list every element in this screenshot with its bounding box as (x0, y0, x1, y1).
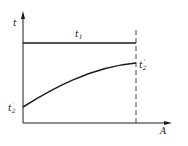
t2-prime-label: t2′ (8, 101, 16, 114)
t2-double-prime-label: t2″ (139, 58, 147, 71)
t2-curve (23, 63, 136, 107)
x-axis-arrow-icon (164, 121, 172, 125)
y-axis-label: t (13, 18, 17, 28)
t1-label: t1 (75, 29, 82, 40)
y-axis-arrow-icon (21, 11, 25, 19)
temperature-area-diagram: t A t1 t2″ t2′ (0, 0, 188, 146)
x-axis-label: A (159, 126, 167, 136)
